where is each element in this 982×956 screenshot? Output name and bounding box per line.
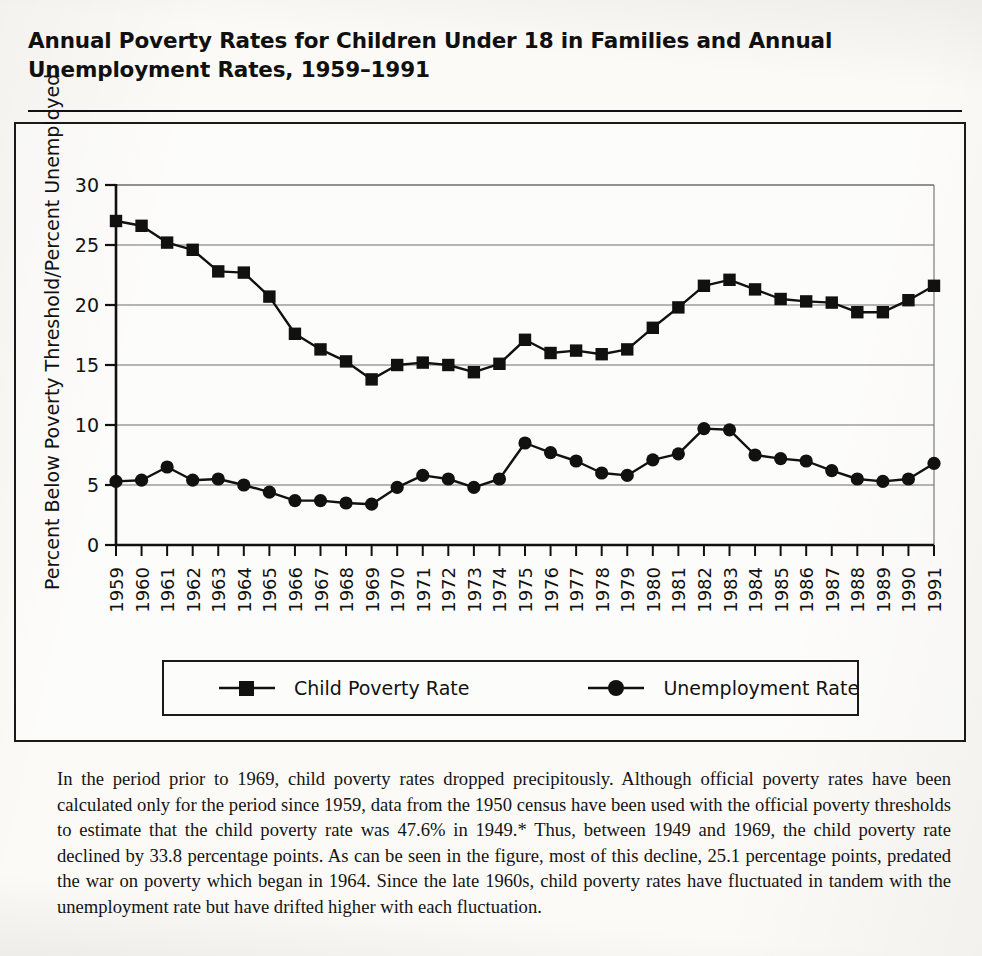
- chart-container: Percent Below Poverty Threshold/Percent …: [14, 122, 966, 662]
- data-point-circle: [800, 454, 813, 467]
- data-point-circle: [697, 422, 710, 435]
- data-point-circle: [442, 472, 455, 485]
- data-point-square: [161, 236, 173, 248]
- data-point-square: [238, 266, 250, 278]
- x-tick-label: 1983: [720, 567, 741, 613]
- data-point-circle: [748, 448, 761, 461]
- data-point-circle: [723, 423, 736, 436]
- data-point-square: [672, 301, 684, 313]
- data-point-square: [570, 344, 582, 356]
- x-tick-label: 1962: [183, 567, 204, 613]
- data-point-square: [493, 358, 505, 370]
- x-tick-label: 1980: [643, 567, 664, 613]
- data-point-square: [544, 347, 556, 359]
- data-point-square: [186, 244, 198, 256]
- y-tick-label: 30: [75, 174, 99, 196]
- data-point-square: [928, 280, 940, 292]
- data-point-circle: [902, 472, 915, 485]
- data-point-circle: [876, 475, 889, 488]
- data-point-square: [749, 283, 761, 295]
- x-tick-label: 1960: [132, 567, 153, 613]
- data-point-circle: [493, 472, 506, 485]
- x-tick-label: 1972: [438, 567, 459, 613]
- data-point-square: [365, 373, 377, 385]
- data-point-square: [135, 220, 147, 232]
- data-point-circle: [288, 494, 301, 507]
- legend-item-unemployment-rate: Unemployment Rate: [587, 677, 859, 699]
- y-tick-label: 5: [87, 474, 99, 496]
- y-tick-label: 15: [75, 354, 99, 376]
- data-point-circle: [646, 453, 659, 466]
- data-point-square: [519, 334, 531, 346]
- x-tick-label: 1986: [796, 567, 817, 613]
- data-point-square: [289, 328, 301, 340]
- data-point-square: [442, 359, 454, 371]
- data-point-square: [826, 296, 838, 308]
- data-point-circle: [825, 464, 838, 477]
- legend-label: Child Poverty Rate: [294, 677, 469, 699]
- x-tick-label: 1977: [566, 567, 587, 613]
- x-tick-label: 1969: [362, 567, 383, 613]
- x-tick-label: 1987: [822, 567, 843, 613]
- x-tick-label: 1981: [668, 567, 689, 613]
- data-point-square: [774, 293, 786, 305]
- title-divider: [28, 110, 962, 112]
- x-tick-label: 1964: [234, 567, 255, 613]
- legend-item-child-poverty-rate: Child Poverty Rate: [218, 677, 469, 699]
- data-point-circle: [851, 472, 864, 485]
- chart-legend: Child Poverty Rate Unemployment Rate: [162, 660, 859, 716]
- data-point-square: [417, 356, 429, 368]
- data-point-square: [212, 265, 224, 277]
- y-tick-label: 10: [75, 414, 99, 436]
- data-point-square: [621, 343, 633, 355]
- data-point-square: [647, 322, 659, 334]
- circle-marker-icon: [587, 679, 645, 697]
- x-tick-label: 1965: [259, 567, 280, 613]
- data-point-square: [391, 359, 403, 371]
- data-point-circle: [161, 460, 174, 473]
- x-tick-label: 1975: [515, 567, 536, 613]
- data-point-circle: [467, 481, 480, 494]
- x-tick-label: 1991: [924, 567, 945, 613]
- data-point-circle: [927, 457, 940, 470]
- x-tick-label: 1967: [311, 567, 332, 613]
- data-point-square: [877, 306, 889, 318]
- data-point-square: [723, 274, 735, 286]
- data-point-circle: [391, 481, 404, 494]
- x-tick-label: 1974: [489, 567, 510, 613]
- data-point-square: [314, 343, 326, 355]
- x-tick-label: 1984: [745, 567, 766, 613]
- figure-title-block: Annual Poverty Rates for Children Under …: [28, 26, 908, 84]
- x-tick-label: 1963: [208, 567, 229, 613]
- data-point-circle: [570, 454, 583, 467]
- x-tick-label: 1966: [285, 567, 306, 613]
- page-title: Annual Poverty Rates for Children Under …: [28, 26, 908, 84]
- y-tick-label: 20: [75, 294, 99, 316]
- data-point-circle: [621, 469, 634, 482]
- y-tick-label: 0: [87, 534, 99, 556]
- x-tick-label: 1982: [694, 567, 715, 613]
- x-tick-label: 1959: [106, 567, 127, 613]
- x-tick-label: 1988: [847, 567, 868, 613]
- x-tick-label: 1979: [617, 567, 638, 613]
- data-point-square: [340, 355, 352, 367]
- square-marker-icon: [218, 679, 276, 697]
- data-point-circle: [595, 466, 608, 479]
- data-point-circle: [263, 486, 276, 499]
- x-tick-label: 1961: [157, 567, 178, 613]
- x-tick-label: 1971: [413, 567, 434, 613]
- x-tick-label: 1990: [898, 567, 919, 613]
- data-point-circle: [186, 474, 199, 487]
- data-point-circle: [314, 494, 327, 507]
- data-point-circle: [109, 475, 122, 488]
- x-tick-label: 1970: [387, 567, 408, 613]
- data-point-square: [698, 280, 710, 292]
- data-point-circle: [339, 496, 352, 509]
- data-point-square: [800, 295, 812, 307]
- data-point-circle: [365, 498, 378, 511]
- legend-label: Unemployment Rate: [663, 677, 859, 699]
- x-tick-label: 1976: [541, 567, 562, 613]
- y-tick-label: 25: [75, 234, 99, 256]
- data-point-circle: [212, 472, 225, 485]
- data-point-square: [468, 366, 480, 378]
